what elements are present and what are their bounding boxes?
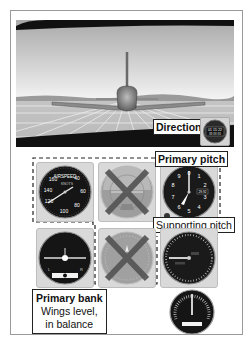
primary-bank-note-2: in balance [36, 318, 103, 331]
svg-text:2: 2 [203, 182, 206, 188]
label-primary-bank: Primary bank Wings level, in balance [32, 289, 107, 334]
svg-text:R: R [80, 267, 83, 272]
primary-bank-title: Primary bank [36, 292, 103, 305]
attitude-indicator-crossed [98, 162, 156, 222]
primary-bank-note-1: Wings level, [36, 305, 103, 318]
svg-text:3: 3 [203, 194, 206, 200]
svg-text:4: 4 [197, 204, 200, 210]
vertical-speed-indicator [160, 228, 218, 288]
svg-text:7: 7 [171, 194, 174, 200]
heading-indicator-crossed [98, 228, 156, 288]
svg-text:1: 1 [197, 173, 200, 179]
svg-text:8: 8 [171, 182, 174, 188]
svg-text:9: 9 [177, 173, 180, 179]
svg-text:60: 60 [80, 188, 86, 194]
svg-text:KNOTS: KNOTS [61, 182, 74, 186]
svg-text:100: 100 [60, 208, 69, 214]
svg-text:6: 6 [177, 204, 180, 210]
svg-text:80: 80 [74, 202, 80, 208]
altimeter: 012 345 6789 29.92 [160, 162, 218, 222]
svg-text:40: 40 [74, 175, 80, 181]
airspeed-indicator: AIRSPEED KNOTS 406080 100120140160 [36, 162, 94, 222]
svg-text:29.92: 29.92 [199, 190, 207, 194]
svg-text:140: 140 [44, 187, 53, 193]
tachometer [168, 289, 216, 335]
label-primary-pitch: Primary pitch [155, 151, 228, 167]
svg-text:5: 5 [187, 208, 190, 214]
caption-fragment [14, 339, 74, 345]
turn-coordinator: L R [36, 228, 94, 288]
svg-text:160: 160 [49, 176, 58, 182]
